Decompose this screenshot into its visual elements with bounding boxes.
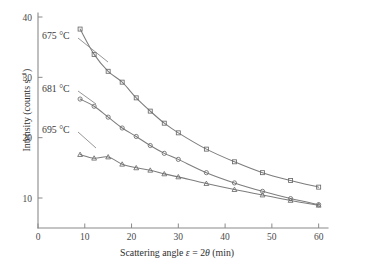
y-tick-label: 40	[23, 13, 33, 23]
y-tick-label: 20	[23, 133, 33, 143]
x-tick-label: 30	[174, 232, 184, 242]
series-label-2: 681 °C	[42, 83, 70, 94]
x-tick-label: 60	[314, 232, 324, 242]
y-tick-label: 30	[23, 73, 33, 83]
axes	[38, 13, 328, 228]
x-axis-title: Scattering angle ε = 2θ (min)	[120, 247, 234, 258]
data-markers	[78, 27, 321, 207]
series-label-3: 695 °C	[42, 124, 70, 135]
data-curves	[80, 29, 319, 205]
series-curve-1	[80, 29, 319, 187]
chart-figure: 010203040506010203040 675 °C681 °C695 °C…	[0, 0, 370, 269]
x-axis-title-prefix: Scattering angle	[120, 247, 186, 258]
series-leader-3	[78, 132, 96, 148]
series-annotations: 675 °C681 °C695 °C	[42, 30, 108, 148]
x-tick-label: 50	[267, 232, 277, 242]
series-curve-3	[80, 155, 319, 206]
x-tick-label: 40	[220, 232, 230, 242]
series-leader-1	[78, 38, 108, 62]
x-axis-title-unit: (min)	[210, 247, 234, 258]
x-tick-label: 0	[36, 232, 41, 242]
x-tick-label: 10	[80, 232, 90, 242]
y-tick-label: 10	[23, 194, 33, 204]
series-label-1: 675 °C	[42, 30, 70, 41]
axis-ticks	[38, 17, 319, 228]
x-axis-title-eq: = 2	[190, 247, 205, 258]
series-curve-2	[80, 99, 319, 205]
x-tick-label: 20	[127, 232, 137, 242]
scattering-intensity-plot: 010203040506010203040 675 °C681 °C695 °C	[0, 0, 370, 269]
